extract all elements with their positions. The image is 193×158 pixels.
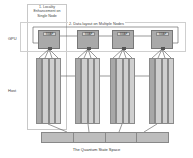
state-segment [137,133,168,142]
quantum-state-bar [41,132,169,143]
state-segment [106,133,138,142]
state-segment [74,133,106,142]
state-space-label: The Quantum State Space [0,147,193,152]
state-segment [42,133,74,142]
